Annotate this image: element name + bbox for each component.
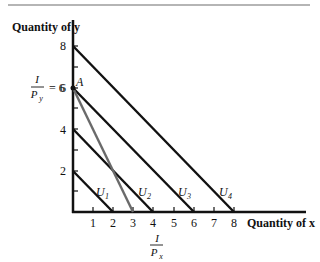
x-tick-6: 6 bbox=[191, 216, 197, 230]
u2-subscript: 2 bbox=[147, 192, 151, 201]
x-axis-title: Quantity of x bbox=[247, 216, 315, 230]
px-denominator: P bbox=[150, 246, 158, 258]
u1-subscript: 1 bbox=[105, 192, 109, 201]
x-tick-4: 4 bbox=[150, 216, 156, 230]
equals-six: = 6 bbox=[49, 81, 65, 95]
x-tick-5: 5 bbox=[171, 216, 177, 230]
income-over-px-numerator: I bbox=[154, 232, 160, 244]
u3-subscript: 3 bbox=[186, 192, 191, 201]
y-tick-4: 4 bbox=[60, 123, 66, 137]
py-denominator: P bbox=[30, 88, 38, 100]
py-subscript: y bbox=[38, 94, 43, 103]
x-tick-1: 1 bbox=[90, 216, 96, 230]
u4-subscript: 4 bbox=[228, 192, 232, 201]
x-tick-2: 2 bbox=[110, 216, 116, 230]
px-subscript: x bbox=[158, 252, 163, 261]
y-tick-2: 2 bbox=[60, 164, 66, 178]
x-tick-3: 3 bbox=[130, 216, 136, 230]
income-over-py-numerator: I bbox=[34, 73, 40, 85]
y-tick-8: 8 bbox=[60, 39, 66, 53]
point-a-marker bbox=[71, 86, 76, 91]
x-tick-8: 8 bbox=[231, 216, 237, 230]
indifference-chart: A 2 4 6 8 I P y = 6 1 2 3 4 5 6 7 8 Quan… bbox=[0, 0, 320, 262]
point-a-label: A bbox=[75, 75, 84, 89]
x-tick-7: 7 bbox=[211, 216, 217, 230]
y-axis-title: Quantity of y bbox=[12, 20, 80, 34]
